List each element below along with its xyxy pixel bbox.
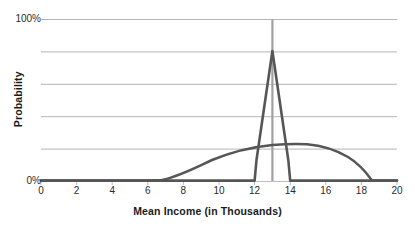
- x-tick-label-12: 12: [240, 186, 270, 196]
- series-sampling-distribution-of-mean: [41, 51, 397, 181]
- x-tick-label-16: 16: [311, 186, 341, 196]
- y-tick-label-100: 100%: [0, 14, 41, 24]
- y-axis-title: Probability: [13, 49, 24, 149]
- x-tick-label-8: 8: [168, 186, 198, 196]
- x-tick-label-10: 10: [204, 186, 234, 196]
- x-tick-label-18: 18: [346, 186, 376, 196]
- x-tick-label-4: 4: [97, 186, 127, 196]
- x-tick-label-20: 20: [382, 186, 412, 196]
- gridlines: [41, 20, 397, 150]
- x-tick-label-2: 2: [62, 186, 92, 196]
- x-tick-label-14: 14: [275, 186, 305, 196]
- chart-container: 100% 0% 0 2 4 6 8 10 12 14 16 18 20 Mean…: [0, 0, 415, 227]
- y-tick-label-0: 0%: [0, 176, 41, 186]
- x-tick-label-0: 0: [26, 186, 56, 196]
- x-axis-title: Mean Income (in Thousands): [0, 206, 415, 217]
- x-tick-label-6: 6: [133, 186, 163, 196]
